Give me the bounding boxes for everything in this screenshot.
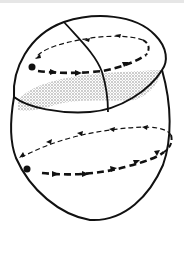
lower-back-arrow-icon [19,152,25,158]
chamber-diagram [0,0,184,257]
lower-loop-back-path [22,127,171,157]
lower-back-arrow-icon [46,139,52,144]
lower-front-arrow-icon [82,171,89,177]
diagram-canvas [0,0,184,257]
upper-loop-front-path [38,55,146,73]
lower-back-arrow-icon [109,127,115,132]
lower-loop-front-path [42,152,164,174]
lower-back-arrow-icon [77,131,83,136]
upper-loop-right-turn [143,40,149,55]
shaded-junction-band [18,70,162,111]
lower-loop-start-dot [24,166,31,173]
lower-front-arrow-icon [52,171,59,177]
upper-front-arrow-icon [75,70,82,76]
upper-front-arrow-icon [50,69,57,75]
lower-back-arrow-icon [142,125,148,130]
lower-front-arrow-icon [154,150,160,156]
upper-loop-start-dot [29,64,36,71]
